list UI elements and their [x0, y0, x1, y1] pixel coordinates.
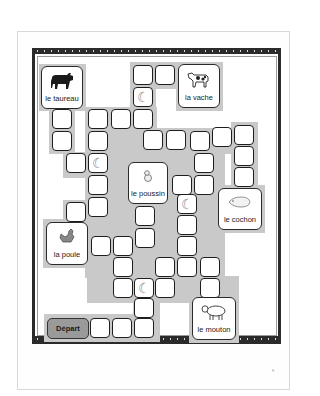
start-label: Départ [56, 324, 80, 333]
card-vache: la vache [178, 64, 220, 108]
board-square[interactable] [88, 131, 108, 151]
board-square[interactable] [135, 206, 155, 226]
board-square[interactable] [155, 278, 175, 298]
board-square[interactable] [177, 215, 197, 235]
card-label: la poule [54, 250, 80, 259]
border-strip-top [32, 48, 281, 54]
board-square[interactable] [194, 175, 214, 195]
cow-icon [186, 70, 212, 88]
board-square[interactable] [113, 257, 133, 277]
board-square[interactable] [112, 318, 132, 338]
board-square[interactable] [194, 153, 214, 173]
hen-icon [57, 228, 77, 246]
board-square[interactable] [134, 318, 154, 338]
card-poussin: le poussin [128, 162, 168, 204]
board-square[interactable] [200, 257, 220, 277]
board-square[interactable] [172, 175, 192, 195]
start-square[interactable]: Départ [47, 318, 89, 339]
page-number: 9 [272, 368, 274, 373]
board-square[interactable] [66, 202, 86, 222]
board-square[interactable] [200, 278, 220, 298]
board-square[interactable] [88, 197, 108, 217]
bull-icon [49, 72, 75, 90]
board-square[interactable] [133, 65, 153, 85]
card-label: le mouton [198, 325, 231, 334]
card-taureau: le taureau [41, 66, 83, 109]
board-square[interactable] [212, 127, 232, 147]
board-square[interactable] [111, 109, 131, 129]
board-square[interactable] [143, 130, 163, 150]
pig-icon [227, 195, 253, 209]
card-label: le cochon [224, 215, 256, 224]
sheep-icon [200, 303, 228, 321]
moon-icon: ☾ [138, 281, 151, 295]
board-square[interactable] [66, 153, 86, 173]
moon-icon: ☾ [137, 90, 150, 104]
card-label: le taureau [45, 94, 78, 103]
chick-icon [142, 169, 154, 183]
moon-square[interactable]: ☾ [177, 194, 197, 214]
board-square[interactable] [190, 131, 210, 151]
card-mouton: le mouton [192, 297, 236, 340]
board-square[interactable] [177, 257, 197, 277]
board-square[interactable] [155, 257, 175, 277]
board-square[interactable] [52, 109, 72, 129]
moon-square[interactable]: ☾ [134, 278, 154, 298]
board-square[interactable] [91, 236, 111, 256]
board-square[interactable] [113, 278, 133, 298]
board-square[interactable] [88, 109, 108, 129]
board-square[interactable] [113, 236, 133, 256]
board-square[interactable] [88, 175, 108, 195]
board-square[interactable] [234, 146, 254, 166]
board-square[interactable] [133, 109, 153, 129]
card-cochon: le cochon [218, 188, 262, 230]
board-square[interactable] [52, 131, 72, 151]
board-square[interactable] [135, 228, 155, 248]
board-square[interactable] [177, 236, 197, 256]
moon-square[interactable]: ☾ [88, 153, 108, 173]
board-square[interactable] [234, 125, 254, 145]
card-label: le poussin [131, 189, 165, 198]
moon-icon: ☾ [181, 197, 194, 211]
moon-square[interactable]: ☾ [133, 87, 153, 107]
moon-icon: ☾ [92, 156, 105, 170]
board-square[interactable] [166, 130, 186, 150]
board-square[interactable] [155, 65, 175, 85]
card-label: la vache [185, 93, 213, 102]
board-square[interactable] [90, 318, 110, 338]
card-poule: la poule [46, 222, 88, 265]
board-square[interactable] [234, 167, 254, 187]
board-square[interactable] [134, 298, 154, 318]
